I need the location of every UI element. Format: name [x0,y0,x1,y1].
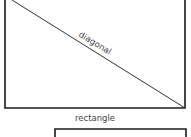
diagram-canvas: diagonal rectangle [0,0,191,137]
second-rectangle-shape [55,129,186,137]
rectangle-label: rectangle [75,113,115,123]
rectangle-shape [5,0,185,108]
diagonal-line [12,0,185,108]
